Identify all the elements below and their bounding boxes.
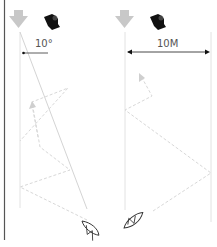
tack-path xyxy=(125,76,211,211)
wind-gust-icon xyxy=(150,14,166,30)
sailboat-icon xyxy=(121,211,146,230)
diagram-svg: 10° xyxy=(0,0,217,247)
wind-direction-arrow-icon xyxy=(115,10,134,28)
course-arrowhead-icon xyxy=(29,101,36,109)
distance-label: 10M xyxy=(157,38,178,49)
wind-direction-arrow-icon xyxy=(9,10,28,28)
left-panel: 10° xyxy=(9,10,101,242)
angle-label: 10° xyxy=(35,38,53,49)
course-arrowhead-icon xyxy=(139,73,145,82)
sailboat-icon xyxy=(76,219,101,242)
right-panel: 10M xyxy=(115,10,211,230)
angle-measure-point xyxy=(22,52,25,55)
distance-measure xyxy=(127,50,210,55)
layline xyxy=(20,32,87,209)
wind-gust-icon xyxy=(44,14,60,30)
sailing-diagram: 10° xyxy=(0,0,217,247)
